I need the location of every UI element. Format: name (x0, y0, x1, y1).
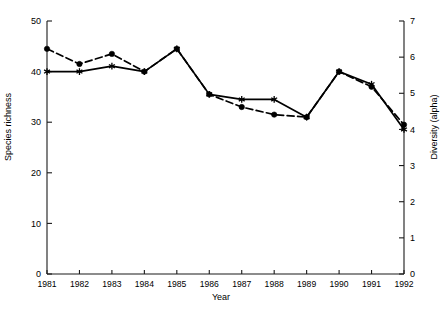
svg-text:1981: 1981 (37, 279, 56, 289)
y-axis-title-left-text: Species richness (3, 92, 13, 160)
svg-text:7: 7 (410, 16, 415, 26)
svg-text:1982: 1982 (70, 279, 89, 289)
data-point-marker (271, 112, 276, 117)
svg-text:1: 1 (410, 233, 415, 243)
y-axis-title-right: Diversity (alpha) (426, 0, 442, 253)
svg-text:1988: 1988 (265, 279, 284, 289)
chart-figure: 0102030405001234567198119821983198419851… (0, 0, 442, 313)
svg-text:1987: 1987 (232, 279, 251, 289)
data-point-marker (77, 61, 82, 66)
axis-layer (47, 21, 404, 274)
svg-text:0: 0 (36, 269, 41, 279)
svg-text:1985: 1985 (167, 279, 186, 289)
svg-text:50: 50 (31, 16, 41, 26)
x-axis-title: Year (0, 292, 442, 302)
svg-text:1990: 1990 (330, 279, 349, 289)
svg-text:1989: 1989 (297, 279, 316, 289)
x-axis-title-text: Year (212, 292, 230, 302)
svg-text:40: 40 (31, 67, 41, 77)
svg-text:1991: 1991 (362, 279, 381, 289)
data-point-marker (44, 46, 49, 51)
svg-text:10: 10 (31, 219, 41, 229)
data-series-layer (44, 45, 407, 132)
svg-text:4: 4 (410, 125, 415, 135)
svg-text:2: 2 (410, 197, 415, 207)
svg-text:1986: 1986 (200, 279, 219, 289)
data-point-marker (239, 104, 244, 109)
data-point-marker (109, 51, 114, 56)
svg-text:30: 30 (31, 117, 41, 127)
svg-text:3: 3 (410, 161, 415, 171)
svg-text:1992: 1992 (394, 279, 413, 289)
svg-text:6: 6 (410, 52, 415, 62)
svg-text:1983: 1983 (102, 279, 121, 289)
y-axis-title-left: Species richness (0, 0, 16, 253)
svg-text:0: 0 (410, 269, 415, 279)
svg-text:1984: 1984 (135, 279, 154, 289)
svg-text:20: 20 (31, 168, 41, 178)
series-line-0 (47, 49, 404, 125)
series-line-1 (47, 49, 404, 130)
tick-label-layer: 0102030405001234567198119821983198419851… (31, 16, 415, 289)
svg-text:5: 5 (410, 88, 415, 98)
line-chart-plot: 0102030405001234567198119821983198419851… (0, 0, 442, 313)
y-axis-title-right-text: Diversity (alpha) (429, 94, 439, 159)
